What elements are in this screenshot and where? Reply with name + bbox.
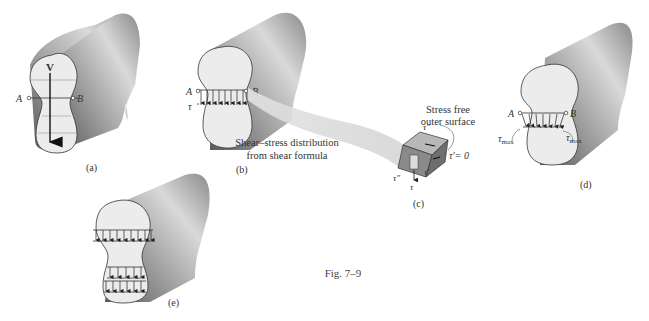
stress-free-note-line1: Stress free — [426, 104, 470, 115]
panel-c: Stress free outer surface τ″ τ′= 0 τ′ τ″… — [393, 104, 476, 210]
panel-d: A B τmax τmax (d) — [498, 23, 633, 191]
panel-label-d: (d) — [580, 179, 592, 191]
force-label-v: V — [46, 61, 54, 73]
distribution-caption-line2: from shear formula — [246, 150, 327, 161]
cross-section-face — [96, 200, 150, 303]
figure-caption: Fig. 7–9 — [325, 267, 362, 279]
tau-double-prime-left: τ″ — [393, 173, 400, 183]
panel-label-b: (b) — [236, 164, 248, 176]
panel-e: (e) — [93, 174, 210, 309]
tau-prime-zero: τ′= 0 — [449, 150, 469, 161]
tau-double-prime-top: τ″ — [423, 122, 430, 132]
panel-label-a: (a) — [86, 162, 97, 174]
point-a-label: A — [185, 86, 193, 97]
tau: τ — [410, 182, 414, 192]
point-b-label: B — [77, 93, 83, 104]
panel-label-e: (e) — [168, 297, 179, 309]
point-a-label: A — [15, 93, 23, 104]
panel-label-c: (c) — [413, 198, 424, 210]
figure-canvas: V A B (a) A B τ Shear–stress distributio… — [0, 0, 649, 321]
point-b-label: B — [570, 108, 576, 119]
panel-a: V A B (a) — [15, 13, 140, 174]
stress-label-tau: τ — [188, 101, 192, 112]
distribution-caption-line1: Shear–stress distribution — [235, 137, 339, 148]
tau-max-left: τmax — [498, 133, 514, 146]
point-a-label: A — [507, 108, 515, 119]
panel-b: A B τ Shear–stress distribution from she… — [185, 13, 340, 176]
